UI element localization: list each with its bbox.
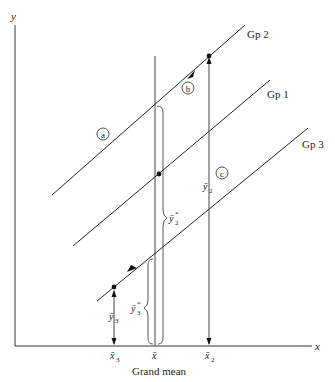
svg-text:3: 3	[115, 317, 119, 325]
svg-text:2: 2	[211, 356, 215, 364]
svg-text:x̄: x̄	[109, 350, 115, 361]
svg-text:*: *	[175, 210, 179, 218]
svg-text:x̄: x̄	[204, 350, 210, 361]
svg-text:ȳ: ȳ	[108, 311, 114, 322]
xbar2-label: x̄ 2	[204, 350, 215, 364]
xbar-grand-label: x̄	[151, 350, 157, 361]
gp3-label: Gp 3	[302, 138, 324, 150]
gp3-mean-point	[112, 285, 117, 290]
xbar3-label: x̄ 3	[109, 350, 120, 364]
gp2-line	[52, 25, 245, 195]
svg-text:3: 3	[137, 309, 141, 317]
marker-b: b	[182, 82, 194, 94]
svg-text:2: 2	[209, 187, 213, 195]
gp2-label: Gp 2	[247, 28, 269, 40]
ancova-diagram: y x Gp 2 Gp 1 Gp 3 a b c ȳ 2 ȳ	[0, 0, 335, 382]
gp1-label: Gp 1	[267, 88, 289, 100]
x-axis-label: x	[314, 340, 320, 352]
ybar3-arrowhead-up-icon	[112, 290, 117, 297]
svg-text:c: c	[220, 169, 224, 179]
ybar2-label: ȳ 2	[202, 181, 213, 195]
svg-text:*: *	[137, 300, 141, 308]
y2-adjusted-brace	[157, 106, 167, 344]
svg-text:x̄: x̄	[151, 350, 157, 361]
ybar3-arrowhead-down-icon	[112, 338, 117, 345]
grand-mean-caption: Grand mean	[132, 365, 187, 377]
gp2-adjusted-point	[157, 172, 162, 177]
y-axis-label: y	[10, 10, 16, 22]
ybar2-arrowhead-down-icon	[207, 338, 212, 345]
svg-text:b: b	[186, 84, 191, 94]
svg-text:2: 2	[175, 219, 179, 227]
svg-text:a: a	[101, 130, 105, 140]
svg-text:ȳ: ȳ	[130, 303, 136, 314]
gp3-direction-arrow-icon	[127, 265, 137, 272]
ybar3-adjusted-label: ȳ 3 *	[130, 300, 141, 317]
y3-adjusted-brace	[144, 259, 153, 344]
marker-a: a	[97, 128, 109, 140]
svg-text:ȳ: ȳ	[168, 213, 174, 224]
svg-text:3: 3	[116, 356, 120, 364]
gp3-line	[97, 128, 308, 301]
marker-c: c	[216, 167, 228, 179]
ybar2-adjusted-label: ȳ 2 *	[168, 210, 179, 227]
svg-text:ȳ: ȳ	[202, 181, 208, 192]
